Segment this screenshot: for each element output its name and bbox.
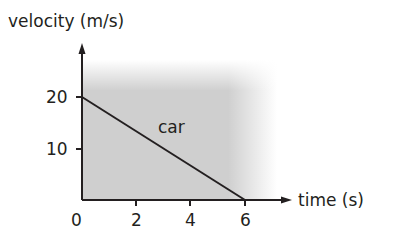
- x-tick-label-2: 2: [131, 210, 142, 230]
- x-axis-arrow-icon: [281, 197, 292, 204]
- x-tick-label-4: 4: [185, 210, 196, 230]
- series-label-car: car: [158, 117, 185, 137]
- y-tick-label-20: 20: [46, 87, 68, 107]
- y-axis-label: velocity (m/s): [8, 11, 124, 31]
- y-axis-arrow-icon: [79, 43, 86, 54]
- x-tick-label-0: 0: [71, 210, 82, 230]
- y-tick-label-10: 10: [46, 139, 68, 159]
- x-tick-label-6: 6: [240, 210, 251, 230]
- velocity-time-graph: velocity (m/s) time (s) car 20 10 0 2 4 …: [0, 0, 395, 234]
- x-axis-label: time (s): [298, 190, 364, 210]
